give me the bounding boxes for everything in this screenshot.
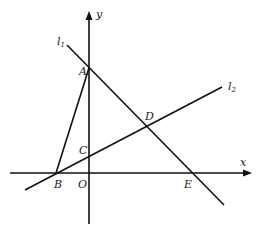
point-b-label: B: [53, 178, 62, 191]
point-e-label: E: [183, 178, 192, 191]
line-l2-label: l2: [228, 80, 237, 94]
origin-label: O: [78, 178, 87, 191]
point-a-label: A: [78, 65, 87, 78]
y-axis-label: y: [95, 8, 103, 21]
x-axis-label: x: [240, 156, 247, 169]
line-l1: [67, 45, 224, 205]
x-axis-arrow-icon: [243, 170, 252, 177]
y-axis-arrow-icon: [86, 11, 93, 20]
point-c-label: C: [79, 144, 88, 157]
point-d-label: D: [144, 110, 154, 123]
line-l1-label: l1: [57, 35, 65, 49]
segment-ab: [56, 68, 89, 173]
coordinate-diagram: y x O l1 l2 A B C D E: [0, 0, 259, 239]
